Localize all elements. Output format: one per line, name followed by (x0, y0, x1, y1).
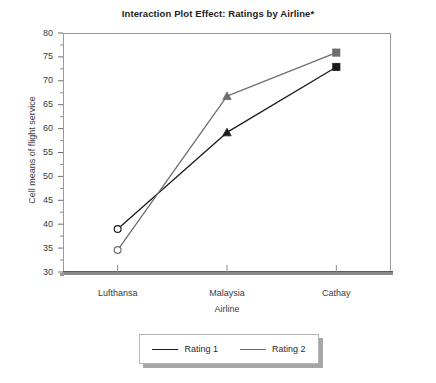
legend-label-rating-1: Rating 1 (184, 344, 218, 354)
legend-label-rating-2: Rating 2 (272, 344, 306, 354)
series-markers (114, 49, 340, 253)
legend-entry-rating-1[interactable]: Rating 1 (152, 344, 218, 354)
x-tick-label: Malaysia (182, 288, 272, 298)
x-axis-ticks (118, 265, 337, 272)
y-tick-label: 80 (27, 29, 53, 38)
chart-canvas (0, 0, 436, 383)
legend-entry-rating-2[interactable]: Rating 2 (240, 344, 306, 354)
chart-legend: Rating 1 Rating 2 (139, 334, 319, 364)
x-tick-label: Cathay (291, 288, 381, 298)
x-axis-title: Airline (63, 304, 391, 314)
data-point-marker (223, 92, 231, 100)
data-point-marker (223, 128, 231, 136)
data-point-marker (333, 63, 340, 70)
y-tick-label: 30 (27, 268, 53, 277)
y-axis-title: Cell means of flight service (27, 50, 37, 250)
data-point-marker (333, 49, 340, 56)
series-lines (118, 53, 337, 250)
legend-swatch-rating-1 (152, 349, 178, 350)
x-tick-label: Lufthansa (73, 288, 163, 298)
legend-swatch-rating-2 (240, 349, 266, 350)
data-point-marker (114, 226, 121, 233)
data-point-marker (114, 247, 121, 254)
